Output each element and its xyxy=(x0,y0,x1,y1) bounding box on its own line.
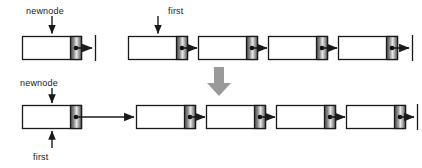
bottom-list-node-2 xyxy=(207,106,276,129)
bottom-list-node-3 xyxy=(277,106,346,129)
top-list-node-3 xyxy=(269,37,338,60)
label-newnode-bottom: newnode xyxy=(20,78,58,88)
top-list-node-2 xyxy=(199,37,268,60)
top-newnode-node xyxy=(23,35,96,61)
label-first-top: first xyxy=(168,6,184,16)
label-newnode-top: newnode xyxy=(26,6,64,16)
label-first-bottom: first xyxy=(33,152,49,162)
bottom-list-node-1 xyxy=(137,106,206,129)
transition-down-arrow xyxy=(207,67,231,96)
top-list-node-4 xyxy=(339,35,413,61)
bottom-list-node-4 xyxy=(347,104,418,130)
bottom-newnode-node xyxy=(23,106,135,129)
linked-list-insertion-diagram xyxy=(0,0,422,168)
top-list-node-1 xyxy=(129,37,198,60)
